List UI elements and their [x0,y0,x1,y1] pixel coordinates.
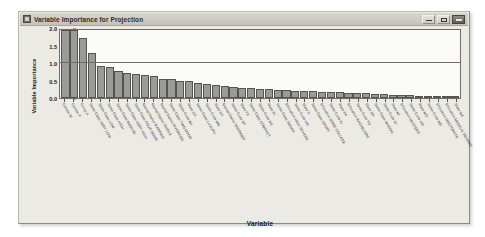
bar[interactable] [406,95,414,98]
window-title: Variable Importance for Projection [34,13,143,26]
x-tick-label-cell: Group A [78,103,87,181]
bar[interactable] [229,87,237,98]
minimize-icon[interactable] [422,15,435,24]
x-tick-label-cell: Marital Status DIVORCED [158,103,167,181]
x-tick-label-cell: Sales Code MM [202,103,211,181]
bar[interactable] [238,88,246,99]
x-tick-label-cell: Marital Status WIDOWED [220,103,229,181]
bar[interactable] [442,96,450,98]
bar-series [60,30,460,98]
bar[interactable] [433,96,441,98]
bar[interactable] [194,83,202,98]
bar[interactable] [167,79,175,98]
x-tick-label-cell: Sales Code NI [380,103,389,181]
bar[interactable] [450,96,458,98]
x-tick-label-cell: State MI [389,103,398,181]
x-tick-label-cell: Sales Code BA [176,103,185,181]
x-tick-label-cell: Sales Class MEDIUM [113,103,122,181]
bar[interactable] [256,89,264,98]
x-tick-label-cell: Sales Class HIGH [104,103,113,181]
bar[interactable] [353,93,361,98]
x-tick-label-cell: Sales Class VERY LOW [87,103,96,181]
x-tick-label-cell: Education SOME COLLEGE [318,103,327,181]
bar[interactable] [123,73,131,98]
bar[interactable] [141,75,149,98]
bar[interactable] [159,79,167,98]
vip-bar-chart: Variable Importance 0.00.51.01.52.0 Gend… [21,27,467,221]
x-tick-label-cell: Sales Class SPORT [309,103,318,181]
bar[interactable] [327,92,335,98]
bar[interactable] [362,93,370,98]
x-tick-label-cell: Gender M [60,103,69,181]
x-tick-label-cell: State IL [300,103,309,181]
gridline [60,62,460,63]
x-tick-label-cell: Sales Class FOUR DOOR [131,103,140,181]
bar[interactable] [389,95,397,99]
x-tick-label-cell: Education MASTERS [398,103,407,181]
x-tick-label: State WA [453,103,464,118]
close-icon[interactable] [452,15,465,24]
bar[interactable] [203,84,211,98]
x-tick-label-cell: Education DOCTORATE [433,103,442,181]
bar[interactable] [380,94,388,98]
bar[interactable] [424,96,432,98]
y-tick-label: 1.5 [42,44,57,50]
bar[interactable] [176,81,184,99]
bar[interactable] [265,89,273,98]
bar[interactable] [282,90,290,98]
bar[interactable] [309,91,317,98]
bar[interactable] [221,86,229,98]
window-titlebar[interactable]: Variable Importance for Projection [20,13,468,26]
bar[interactable] [79,38,87,98]
x-tick-label-cell: State FL [264,103,273,181]
bar[interactable] [415,96,423,98]
plot-area [59,29,461,99]
bar[interactable] [300,91,308,98]
bar[interactable] [336,92,344,98]
window-content: Variable Importance 0.00.51.01.52.0 Gend… [21,27,467,221]
bar[interactable] [371,94,379,98]
x-tick-label-cell: State PA [336,103,345,181]
x-tick-label-cell: Sales Class LUXURY [193,103,202,181]
bar[interactable] [70,30,78,98]
bar[interactable] [318,92,326,98]
y-tick-label: 0.0 [42,96,57,102]
bar[interactable] [274,90,282,98]
y-tick-label: 2.0 [42,26,57,32]
application-window: Variable Importance for Projection Varia… [18,11,470,224]
x-tick-label-cell: State OH [362,103,371,181]
x-tick-label-cell: Sales Code KI [327,103,336,181]
x-tick-label-cell: State MO [416,103,425,181]
x-tick-label-cell: State TX [238,103,247,181]
y-tick-label: 0.5 [42,79,57,85]
maximize-icon[interactable] [437,15,450,24]
bar[interactable] [397,95,405,98]
app-window-icon [23,15,31,23]
y-axis-ticks: 0.00.51.01.52.0 [37,27,57,221]
x-tick-label-cell: State CA [184,103,193,181]
bar[interactable] [106,67,114,98]
bar[interactable] [291,91,299,98]
bar[interactable] [150,76,158,98]
x-tick-label-cell: Sales Class TWO DOOR [167,103,176,181]
bar[interactable] [114,71,122,98]
x-tick-label-cell: Education BACHELORS [345,103,354,181]
x-tick-label-cell: Education MEDICAL DEGREE [442,103,451,181]
screenshot-root: Variable Importance for Projection Varia… [0,0,485,237]
x-tick-label-cell: State NY [211,103,220,181]
x-tick-label-cell: Sales Class WAGON [371,103,380,181]
bar[interactable] [344,93,352,98]
bar[interactable] [97,66,105,98]
bar[interactable] [88,53,96,98]
x-axis-title: Variable [59,220,461,227]
x-tick-label-cell: Sales Class COMPACT [247,103,256,181]
bar[interactable] [185,81,193,98]
x-axis-tick-labels: Gender MGender FGroup ASales Class VERY … [59,103,461,181]
bar[interactable] [61,30,69,98]
bar[interactable] [247,88,255,98]
x-tick-label-cell: Sales Code SP [229,103,238,181]
bar[interactable] [132,74,140,99]
x-tick-label-cell: Marital Status MARRIED [140,103,149,181]
bar[interactable] [212,85,220,98]
x-tick-label-cell: State WA [451,103,460,181]
